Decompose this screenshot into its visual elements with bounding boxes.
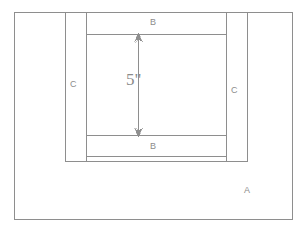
- opening-rectangle: [87, 35, 227, 136]
- label-left-band-c: C: [70, 80, 77, 89]
- label-dimension-value: 5": [126, 71, 141, 88]
- outer-rectangle-a: [15, 13, 293, 220]
- label-right-band-c: C: [231, 86, 238, 95]
- label-bottom-band-b: B: [150, 142, 157, 151]
- label-top-band-b: B: [150, 18, 157, 27]
- label-outer-area-a: A: [244, 186, 251, 195]
- technical-drawing-svg: [0, 0, 306, 232]
- drawing-canvas: B B C C A 5": [0, 0, 306, 232]
